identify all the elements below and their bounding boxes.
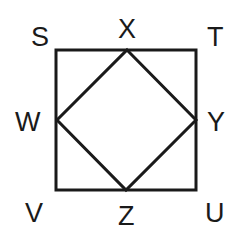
label-u: U [205,198,225,228]
label-z: Z [118,201,135,231]
label-w: W [15,107,41,137]
label-s: S [31,22,49,52]
label-y: Y [207,107,225,137]
geometry-diagram: S X T W Y V Z U [0,0,234,235]
outer-square-stuv [56,50,196,190]
label-x: X [118,14,136,44]
label-v: V [25,198,43,228]
label-t: T [207,22,224,52]
inner-square-wxyz [57,50,196,190]
